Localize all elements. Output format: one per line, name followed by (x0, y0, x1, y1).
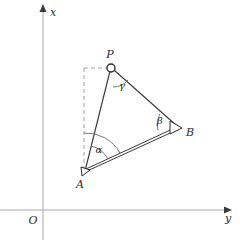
x-axis-label: x (50, 6, 57, 19)
point-marker-B[interactable] (170, 121, 182, 134)
x-axis-arrow-icon (40, 4, 47, 12)
labels-group: x y O P B A α β γ (28, 6, 231, 227)
angle-label-alpha: α (96, 144, 103, 155)
origin-label: O (28, 214, 37, 227)
point-marker-P[interactable] (107, 64, 115, 72)
point-label-P: P (105, 48, 114, 61)
point-markers-group (81, 64, 182, 176)
angle-label-gamma: γ (119, 80, 125, 91)
angle-label-beta: β (156, 115, 163, 126)
y-axis-label: y (224, 212, 232, 225)
segment-PB (114, 70, 177, 126)
geometry-figure: x y O P B A α β γ (0, 0, 240, 242)
point-label-A: A (75, 178, 84, 191)
axes-group (0, 4, 232, 240)
point-marker-A[interactable] (81, 167, 90, 176)
point-label-B: B (185, 126, 194, 139)
triangle-sides-group (85, 70, 179, 172)
dashed-guides-group (84, 68, 106, 171)
